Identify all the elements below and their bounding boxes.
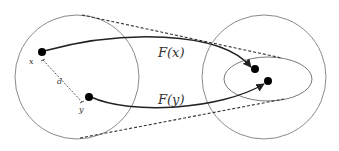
distance-line xyxy=(43,60,82,102)
domain-circle xyxy=(15,15,139,139)
label-Fy: F(y) xyxy=(157,92,185,107)
label-d: d xyxy=(57,77,62,86)
point-x xyxy=(38,48,46,56)
point-y xyxy=(85,93,93,101)
label-y: y xyxy=(78,105,84,114)
point-Fx xyxy=(251,65,259,73)
label-Fx: F(x) xyxy=(157,45,185,60)
codomain-circle xyxy=(202,15,326,139)
mapping-diagram: x y d F(x) F(y) xyxy=(0,0,339,151)
point-Fy xyxy=(264,77,272,85)
label-x: x xyxy=(29,57,34,66)
arrow-x-to-Fx xyxy=(44,37,251,67)
